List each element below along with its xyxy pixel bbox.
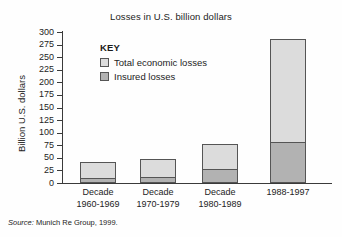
legend-label-total-economic-losses: Total economic losses [114, 57, 207, 68]
chart-legend: KEY Total economic losses Insured losses [100, 42, 207, 85]
y-tick-mark [57, 183, 62, 184]
source-note: Source: Munich Re Group, 1999. [8, 218, 118, 227]
bar-group[interactable] [202, 144, 238, 183]
legend-item-total-economic-losses: Total economic losses [100, 57, 207, 68]
bar-segment-insured-losses[interactable] [80, 178, 116, 183]
chart-figure: Losses in U.S. billion dollars Billion U… [0, 0, 342, 237]
y-tick-label: 175 [20, 90, 54, 99]
y-tick-label: 0 [20, 179, 54, 188]
bar-segment-insured-losses[interactable] [270, 142, 306, 183]
y-tick-label: 100 [20, 128, 54, 137]
bar-group[interactable] [80, 162, 116, 183]
legend-title: KEY [100, 42, 207, 53]
y-tick-label: 75 [20, 141, 54, 150]
legend-item-insured-losses: Insured losses [100, 71, 207, 82]
y-tick-label: 150 [20, 103, 54, 112]
y-tick-label: 300 [20, 28, 54, 37]
y-tick-label: 50 [20, 153, 54, 162]
y-tick-label: 125 [20, 116, 54, 125]
legend-swatch-total-economic-losses [100, 58, 109, 67]
x-tick-label-line: 1988-1997 [248, 187, 328, 199]
x-axis-line [62, 183, 332, 184]
y-tick-label: 250 [20, 53, 54, 62]
y-tick-label: 25 [20, 166, 54, 175]
y-tick-label: 225 [20, 65, 54, 74]
page-title: Losses in U.S. billion dollars [0, 11, 342, 22]
y-tick-label: 200 [20, 78, 54, 87]
x-tick-label-line: 1980-1989 [180, 199, 260, 211]
source-text: Munich Re Group, 1999. [36, 218, 118, 227]
bar-segment-insured-losses[interactable] [140, 177, 176, 183]
legend-label-insured-losses: Insured losses [114, 71, 175, 82]
source-label: Source: [8, 218, 34, 227]
legend-swatch-insured-losses [100, 72, 109, 81]
bar-group[interactable] [270, 39, 306, 183]
bar-segment-insured-losses[interactable] [202, 169, 238, 183]
x-tick-label: 1988-1997 [248, 187, 328, 199]
y-tick-label: 275 [20, 40, 54, 49]
bar-group[interactable] [140, 159, 176, 183]
